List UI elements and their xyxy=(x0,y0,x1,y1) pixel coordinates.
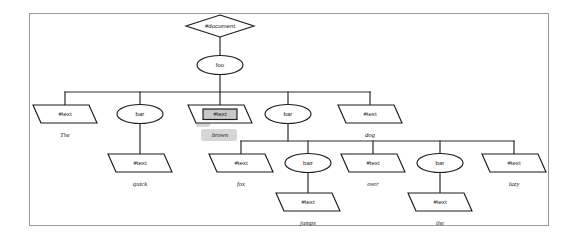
node-text-jumps-text: #text xyxy=(301,198,315,205)
node-text-the-text: #text xyxy=(58,110,72,117)
node-text-fox-text: #text xyxy=(234,159,248,166)
node-text-fox-label: fox xyxy=(237,180,245,187)
node-text-brown[interactable]: #text brown xyxy=(188,105,252,138)
node-bar-3-text: bar xyxy=(436,159,445,166)
node-text-quick[interactable]: #text quick xyxy=(108,154,172,187)
node-text-brown-label: brown xyxy=(212,131,229,138)
node-bar-1-text: bar xyxy=(136,110,145,117)
node-bar-1[interactable]: bar xyxy=(117,105,163,124)
node-bar-2[interactable]: bar xyxy=(265,105,311,124)
dom-tree-svg: #document foo #text The bar #text brown xyxy=(0,0,576,239)
node-foo-text: foo xyxy=(216,61,225,68)
node-text-over[interactable]: #text over xyxy=(341,154,405,187)
node-bar-2-text: bar xyxy=(284,110,293,117)
node-text-dog[interactable]: #text dog xyxy=(338,105,402,138)
node-text-fox[interactable]: #text fox xyxy=(209,154,273,187)
node-text-the2[interactable]: #text the xyxy=(408,193,472,226)
node-text-lazy-label: lazy xyxy=(509,180,520,187)
node-text-the-label: The xyxy=(60,131,70,138)
diagram-canvas: #document foo #text The bar #text brown xyxy=(0,0,576,239)
node-text-brown-text: #text xyxy=(213,110,227,117)
node-text-the2-label: the xyxy=(436,219,444,226)
node-text-quick-label: quick xyxy=(133,180,148,187)
node-text-over-text: #text xyxy=(366,159,380,166)
node-text-over-label: over xyxy=(367,180,379,187)
node-text-dog-label: dog xyxy=(365,131,376,138)
node-document[interactable]: #document xyxy=(186,15,254,37)
node-baz-text: baz xyxy=(303,159,313,166)
node-bar-3[interactable]: bar xyxy=(417,154,463,173)
node-document-text: #document xyxy=(205,22,235,29)
node-foo[interactable]: foo xyxy=(197,56,243,75)
node-text-dog-text: #text xyxy=(363,110,377,117)
node-text-lazy[interactable]: #text lazy xyxy=(482,154,546,187)
node-text-the2-text: #text xyxy=(433,198,447,205)
node-baz[interactable]: baz xyxy=(285,154,331,173)
node-text-jumps[interactable]: #text jumps xyxy=(276,193,340,226)
node-text-jumps-label: jumps xyxy=(299,219,316,226)
node-text-lazy-text: #text xyxy=(507,159,521,166)
node-text-the[interactable]: #text The xyxy=(33,105,97,138)
node-text-quick-text: #text xyxy=(133,159,147,166)
